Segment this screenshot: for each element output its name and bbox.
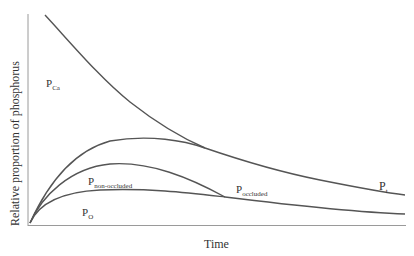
label-p-occluded: Poccluded	[236, 184, 267, 198]
curve-p-t	[205, 148, 405, 195]
label-p-t-main: P	[379, 179, 386, 193]
x-axis-label: Time	[204, 237, 229, 252]
label-p-t: Pt	[379, 180, 388, 195]
y-axis-label: Relative proportion of phosphorus	[8, 61, 23, 226]
label-p-ca-sub: Ca	[52, 84, 60, 92]
curve-p-ca	[45, 15, 205, 148]
label-p-non-occluded: Pnon-occluded	[88, 176, 132, 190]
chart-canvas	[0, 0, 414, 256]
label-p-nonocc-sub: non-occluded	[94, 182, 132, 190]
label-p-o: PO	[82, 207, 93, 221]
label-p-o-sub: O	[88, 213, 93, 221]
label-p-occ-sub: occluded	[242, 190, 267, 198]
label-p-ca: PCa	[46, 78, 60, 92]
label-p-t-sub: t	[386, 187, 388, 195]
